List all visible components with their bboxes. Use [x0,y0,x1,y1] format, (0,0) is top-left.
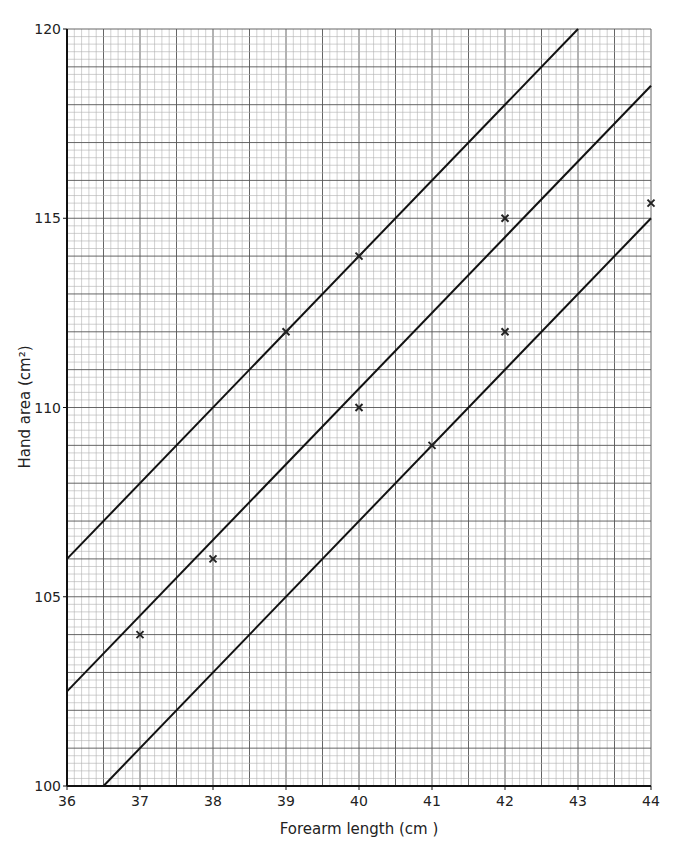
x-tick-label: 42 [496,793,514,809]
x-tick-label: 44 [642,793,660,809]
x-tick-label: 41 [423,793,441,809]
x-tick-label: 38 [204,793,222,809]
y-tick-label: 115 [34,210,61,226]
chart: 363738394041424344 100105110115120 Forea… [0,0,679,853]
x-tick-label: 43 [569,793,587,809]
x-tick-label: 36 [58,793,76,809]
y-tick-label: 100 [34,778,61,794]
y-axis-label: Hand area (cm²) [16,345,34,468]
y-tick-label: 120 [34,21,61,37]
y-tick-label: 110 [34,400,61,416]
x-tick-label: 37 [131,793,149,809]
trend-line-lower [104,218,652,786]
x-tick-label: 39 [277,793,295,809]
y-tick-label: 105 [34,589,61,605]
x-axis-label: Forearm length (cm ) [280,820,439,838]
x-tick-labels: 363738394041424344 [58,786,660,809]
y-tick-labels: 100105110115120 [34,21,67,794]
x-tick-label: 40 [350,793,368,809]
